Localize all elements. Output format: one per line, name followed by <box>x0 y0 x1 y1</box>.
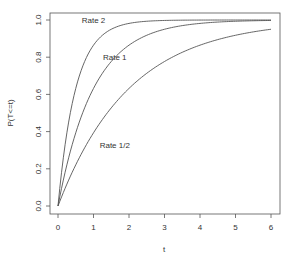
y-tick-label: 0.0 <box>34 200 43 212</box>
annotation-label: Rate 1/2 <box>100 141 131 150</box>
x-axis: 0123456 <box>56 214 274 232</box>
chart: 0123456 0.00.20.40.60.81.0 Rate 2Rate 1R… <box>0 0 290 261</box>
y-tick-label: 0.8 <box>34 51 43 63</box>
y-tick-label: 0.4 <box>34 125 43 137</box>
x-tick-label: 5 <box>233 223 238 232</box>
y-axis-label: P(T<=t) <box>6 99 15 126</box>
x-axis-label: t <box>163 245 166 254</box>
y-tick-label: 0.2 <box>34 163 43 175</box>
x-tick-label: 6 <box>269 223 274 232</box>
curve-rate-1-2 <box>58 29 271 206</box>
curve-rate-1 <box>58 20 271 206</box>
y-tick-label: 0.6 <box>34 88 43 100</box>
curves <box>58 20 271 206</box>
x-tick-label: 0 <box>56 223 61 232</box>
annotations: Rate 2Rate 1Rate 1/2 <box>82 16 131 150</box>
y-axis: 0.00.20.40.60.81.0 <box>34 14 50 212</box>
x-tick-label: 1 <box>91 223 96 232</box>
x-tick-label: 2 <box>127 223 132 232</box>
annotation-label: Rate 1 <box>103 53 127 62</box>
plot-frame <box>50 13 280 214</box>
annotation-label: Rate 2 <box>82 16 106 25</box>
curve-rate-2 <box>58 20 271 206</box>
y-tick-label: 1.0 <box>34 14 43 26</box>
x-tick-label: 3 <box>162 223 167 232</box>
x-tick-label: 4 <box>198 223 203 232</box>
